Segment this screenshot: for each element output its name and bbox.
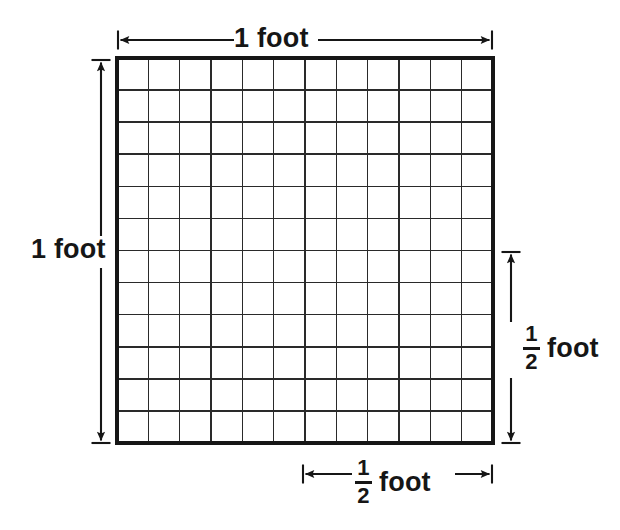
bottom-fraction-numerator: 1 bbox=[357, 457, 369, 479]
right-fraction-denominator: 2 bbox=[525, 351, 537, 373]
left-dimension-label: 1 foot bbox=[31, 236, 106, 263]
bottom-fraction-one-half: 1 2 bbox=[355, 457, 372, 507]
bottom-dimension-label: 1 2 foot bbox=[355, 457, 431, 507]
top-dimension-label: 1 foot bbox=[234, 25, 309, 52]
area-grid-figure: 1 foot 1 foot 1 2 foot 1 2 foot bbox=[0, 0, 620, 530]
right-half-height-arrow bbox=[502, 252, 521, 443]
bottom-unit-label: foot bbox=[379, 469, 431, 496]
right-fraction-one-half: 1 2 bbox=[523, 323, 540, 373]
right-unit-label: foot bbox=[547, 335, 599, 362]
figure-canvas bbox=[0, 0, 620, 530]
right-dimension-label: 1 2 foot bbox=[523, 323, 599, 373]
right-fraction-numerator: 1 bbox=[525, 323, 537, 345]
grid-inner-lines bbox=[117, 58, 493, 443]
bottom-fraction-denominator: 2 bbox=[357, 485, 369, 507]
